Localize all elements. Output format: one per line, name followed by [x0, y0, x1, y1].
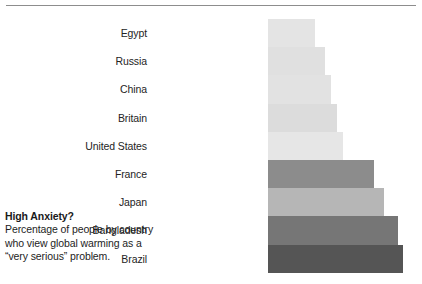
bar [268, 160, 374, 188]
bar-row: China [0, 75, 422, 103]
bar [268, 104, 337, 132]
caption-line-2: who view global warming as a [5, 237, 180, 251]
bar [268, 216, 398, 244]
bar-label: United States [85, 132, 154, 160]
bar-row: Britain [0, 104, 422, 132]
caption-line-1: Percentage of people by country [5, 223, 180, 237]
bar-row: France [0, 160, 422, 188]
bar-row: Russia [0, 47, 422, 75]
bar-row: Egypt [0, 19, 422, 47]
bar [268, 75, 331, 103]
caption-title: High Anxiety? [5, 210, 180, 223]
bar [268, 132, 343, 160]
header-rule [6, 5, 416, 6]
bar [268, 47, 325, 75]
bar [268, 245, 403, 273]
bar-row: United States [0, 132, 422, 160]
bar [268, 188, 384, 216]
bar-label: France [115, 160, 154, 188]
caption-line-3: “very serious” problem. [5, 250, 180, 264]
bar-label: Russia [116, 47, 155, 75]
chart-caption: High Anxiety? Percentage of people by co… [5, 210, 180, 264]
chart-figure: EgyptRussiaChinaBritainUnited StatesFran… [0, 0, 422, 284]
bar-label: Britain [118, 104, 154, 132]
bar-label: China [120, 75, 154, 103]
bar-label: Egypt [121, 19, 154, 47]
bar [268, 19, 315, 47]
